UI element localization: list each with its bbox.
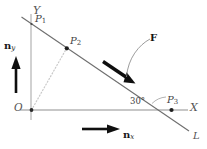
point-P1-marker xyxy=(30,23,32,25)
angle-30-label: 30° xyxy=(130,97,145,106)
normal-vector-ny-label: ny xyxy=(4,41,15,52)
angle-arc xyxy=(152,97,166,104)
point-P1-letter: P xyxy=(35,13,42,24)
normal-vector-nx-label: nx xyxy=(123,130,134,141)
point-P3-marker xyxy=(169,108,173,112)
force-vector-F-label: F xyxy=(150,33,157,43)
force-vector-F-arrow xyxy=(103,62,136,84)
normal-vector-ny-arrow xyxy=(11,56,20,93)
origin-label: O xyxy=(14,102,23,113)
point-P2-letter: P xyxy=(70,35,77,46)
point-P2-label: P2 xyxy=(70,36,81,47)
nx-subscript: x xyxy=(130,133,134,141)
x-axis-label: X xyxy=(190,102,198,113)
line-L xyxy=(22,17,190,131)
geometry-figure: Y X O L P1 P2 P3 ny nx F 30° xyxy=(0,0,207,149)
normal-vector-nx-arrow xyxy=(82,124,120,133)
point-P1-subscript: 1 xyxy=(42,17,46,25)
point-P3-label: P3 xyxy=(167,95,178,106)
point-P3-letter: P xyxy=(167,94,174,105)
point-P3-subscript: 3 xyxy=(174,98,178,106)
line-L-label: L xyxy=(193,131,200,141)
point-P1-label: P1 xyxy=(35,14,46,25)
ny-subscript: y xyxy=(11,44,15,52)
point-P2-marker xyxy=(65,46,69,50)
point-P2-subscript: 2 xyxy=(77,39,81,47)
force-label-leader-line xyxy=(127,39,151,77)
origin-point-marker xyxy=(30,108,34,112)
dotted-construction-line xyxy=(32,49,67,111)
figure-canvas xyxy=(0,0,207,149)
